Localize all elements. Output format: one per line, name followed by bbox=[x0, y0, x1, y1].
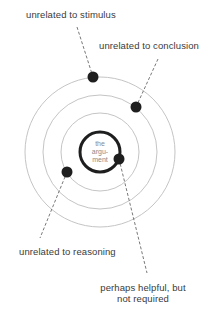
label-perhaps-helpful-line-2: not required bbox=[97, 293, 189, 304]
helpful-leader bbox=[119, 159, 147, 273]
center-label: the argu- ment bbox=[85, 140, 115, 164]
center-label-line-2: argu- bbox=[85, 148, 115, 156]
label-unrelated-to-stimulus: unrelated to stimulus bbox=[26, 9, 116, 20]
reasoning-leader bbox=[40, 172, 67, 238]
label-perhaps-helpful: perhaps helpful, but not required bbox=[97, 282, 189, 304]
conclusion-leader bbox=[136, 59, 158, 107]
argument-dot bbox=[114, 154, 125, 165]
label-unrelated-to-reasoning: unrelated to reasoning bbox=[19, 246, 116, 257]
center-label-line-3: ment bbox=[85, 156, 115, 164]
label-unrelated-to-conclusion: unrelated to conclusion bbox=[99, 40, 199, 51]
label-perhaps-helpful-line-1: perhaps helpful, but bbox=[97, 282, 189, 293]
conclusion-dot bbox=[131, 102, 142, 113]
stimulus-dot bbox=[88, 72, 99, 83]
stimulus-leader bbox=[77, 27, 93, 77]
center-label-line-1: the bbox=[85, 140, 115, 148]
reasoning-dot bbox=[62, 167, 73, 178]
